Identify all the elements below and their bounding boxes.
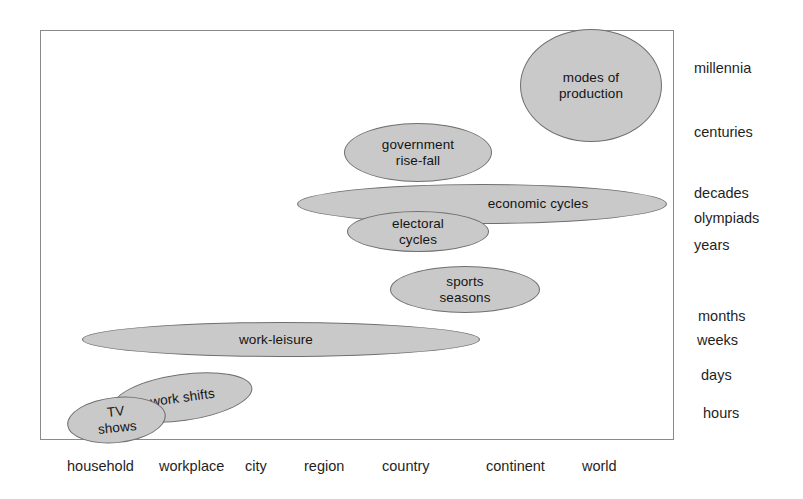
yaxis-label-olympiads: olympiads [694,210,759,226]
yaxis-label-centuries: centuries [694,124,753,140]
bubble-modes-of-production[interactable]: modes of production [520,29,662,142]
xaxis-label-continent: continent [486,458,545,474]
bubble-label-economic-cycles: economic cycles [488,196,589,212]
xaxis-label-city: city [245,458,267,474]
bubble-sports-seasons[interactable]: sports seasons [390,266,540,313]
xaxis-label-country: country [382,458,430,474]
yaxis-label-decades: decades [694,185,749,201]
bubble-label-sports-seasons: sports seasons [440,274,491,306]
xaxis-label-household: household [67,458,134,474]
xaxis-label-region: region [304,458,344,474]
yaxis-label-years: years [694,237,729,253]
yaxis-label-weeks: weeks [697,332,738,348]
diagram-canvas: modes of production government rise-fall… [0,0,803,499]
bubble-label-work-leisure: work-leisure [239,332,313,348]
bubble-label-tv-shows: TV shows [96,402,138,438]
bubble-label-modes-of-production: modes of production [559,70,623,102]
yaxis-label-millennia: millennia [694,60,751,76]
bubble-label-electoral-cycles: electoral cycles [392,216,444,248]
xaxis-label-workplace: workplace [159,458,224,474]
yaxis-label-hours: hours [703,405,739,421]
bubble-economic-cycles[interactable]: economic cycles [297,184,667,224]
yaxis-label-months: months [698,308,746,324]
xaxis-label-world: world [582,458,617,474]
yaxis-label-days: days [701,367,732,383]
bubble-electoral-cycles[interactable]: electoral cycles [347,211,489,252]
bubble-government-rise-fall[interactable]: government rise-fall [344,123,492,182]
bubble-work-leisure[interactable]: work-leisure [82,322,480,357]
bubble-label-government-rise-fall: government rise-fall [382,137,454,169]
